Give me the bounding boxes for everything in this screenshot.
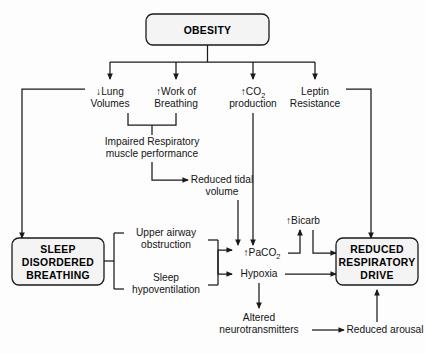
node-leptin-line1: Leptin [301,86,329,97]
node-reduced-drive-line1: REDUCED [350,244,404,255]
node-co2-production-line2: production [229,98,277,109]
edge-leptin-to-drive [346,89,371,238]
node-altered-neuro-line2: neurotransmitters [219,324,298,335]
edge-lung-work-merge [128,113,176,125]
node-sleep-disordered-line1: SLEEP [40,244,76,255]
node-altered-neuro-line1: Altered [243,312,276,323]
edge-impaired-to-tidal [152,162,188,180]
obesity-respiratory-flowchart: OBESITY ↓Lung Volumes ↑Work of Breathing… [0,0,425,353]
edge-mech-to-paco2 [218,250,232,262]
node-hypoxia-label: Hypoxia [241,268,278,279]
node-work-breathing-line2: Breathing [154,98,198,109]
node-co2-production-prefix: ↑CO [241,86,261,97]
node-paco2-subscript: 2 [276,252,280,261]
node-reduced-drive-line3: DRIVE [360,270,393,281]
node-sleep-disordered-line3: BREATHING [26,270,90,281]
node-reduced-tidal-line1: Reduced tidal [191,174,253,185]
edge-paco2-to-bicarb [288,230,300,253]
node-impaired-muscle-line1: Impaired Respiratory [105,136,200,147]
node-sleep-hypo-line2: hypoventilation [132,284,200,295]
node-impaired-muscle-line2: muscle performance [106,148,199,159]
edge-bicarb-to-drive [313,230,336,253]
node-sleep-disordered-line2: DISORDERED [22,257,94,268]
node-upper-airway-line1: Upper airway [136,227,197,238]
node-reduced-tidal-line2: volume [206,186,239,197]
node-obesity-label: OBESITY [184,25,232,36]
node-sleep-hypo-line1: Sleep [153,272,179,283]
node-paco2-prefix: ↑PaCO [244,247,277,258]
node-bicarb-label: ↑Bicarb [286,215,320,226]
node-reduced-drive-line2: RESPIRATORY [338,257,415,268]
node-lung-volumes-line2: Volumes [90,98,129,109]
edge-mech-to-hypoxia [218,262,232,274]
node-reduced-arousal-label: Reduced arousal [346,324,423,335]
node-work-breathing-line1: ↑Work of [156,86,196,97]
node-paco2-label: ↑PaCO2 [244,247,281,261]
node-lung-volumes-line1: ↓Lung [96,86,124,97]
node-leptin-line2: Resistance [290,98,341,109]
flowchart-canvas: OBESITY ↓Lung Volumes ↑Work of Breathing… [0,0,425,353]
node-upper-airway-line2: obstruction [141,239,191,250]
edge-lung-to-sleep [22,89,85,238]
